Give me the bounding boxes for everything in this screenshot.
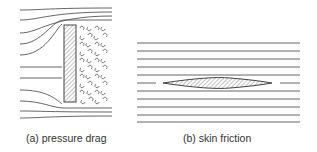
flat-plate [64, 25, 76, 102]
drag-diagram [0, 0, 317, 152]
caption-pressure-drag: (a) pressure drag [26, 132, 107, 144]
streamline [20, 111, 112, 112]
streamline [20, 8, 112, 10]
caption-skin-friction: (b) skin friction [183, 132, 251, 144]
pressure-drag-panel [20, 8, 112, 118]
skin-friction-panel [137, 43, 300, 122]
streamline [20, 90, 62, 104]
streamlined-body [163, 78, 272, 89]
turbulent-wake [80, 26, 107, 103]
streamline [20, 116, 112, 118]
streamline [20, 24, 62, 55]
